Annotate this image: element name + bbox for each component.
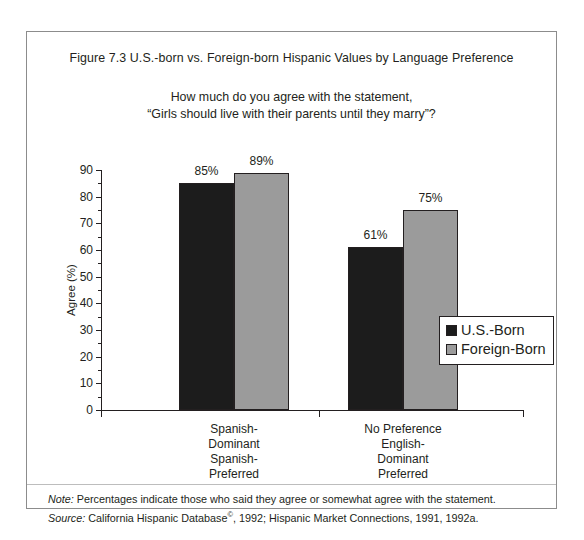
y-tick-label: 50 [80, 270, 93, 284]
y-tick-label: 90 [80, 163, 93, 177]
footnote-source-lead: Source: [48, 512, 85, 524]
legend-label: Foreign-Born [461, 340, 546, 359]
subtitle-line-2: “Girls should live with their parents un… [27, 106, 556, 123]
footnote-note-line: Note: Percentages indicate those who sai… [48, 491, 544, 507]
chart-legend: U.S.-BornForeign-Born [439, 316, 554, 365]
y-tick-minor [98, 370, 102, 371]
y-tick-minor [98, 343, 102, 344]
y-tick-minor [98, 290, 102, 291]
bar-us-born [179, 183, 234, 410]
category-label-line: Preferred [208, 467, 259, 482]
subtitle-line-1: How much do you agree with the statement… [27, 89, 556, 106]
y-tick-label: 60 [80, 243, 93, 257]
y-tick-minor [98, 263, 102, 264]
y-tick-major [96, 277, 102, 278]
y-tick-major [96, 383, 102, 384]
x-tick [319, 410, 320, 417]
bar-foreign-born [234, 173, 289, 410]
x-tick [523, 410, 524, 417]
y-tick-label: 10 [80, 376, 93, 390]
y-tick-minor [98, 397, 102, 398]
y-tick-minor [98, 317, 102, 318]
category-label: Spanish-DominantSpanish-Preferred [208, 422, 259, 482]
legend-label: U.S.-Born [461, 321, 525, 340]
category-label-line: Spanish- [208, 452, 259, 467]
category-label-line: English- [364, 437, 441, 452]
y-tick-label: 0 [86, 403, 93, 417]
footnote-note-lead: Note: [48, 493, 74, 505]
x-axis-line [101, 410, 523, 411]
y-tick-label: 20 [80, 350, 93, 364]
legend-swatch-icon [446, 344, 457, 355]
legend-swatch-icon [446, 325, 457, 336]
bar-value-label: 75% [418, 191, 442, 205]
y-tick-minor [98, 237, 102, 238]
y-tick-major [96, 357, 102, 358]
legend-item-us-born[interactable]: U.S.-Born [446, 321, 546, 340]
bar-value-label: 89% [249, 154, 273, 168]
y-tick-major [96, 223, 102, 224]
y-tick-label: 40 [80, 296, 93, 310]
figure-title: Figure 7.3 U.S.-born vs. Foreign-born Hi… [27, 51, 556, 65]
legend-item-foreign-born[interactable]: Foreign-Born [446, 340, 546, 359]
y-tick-label: 30 [80, 323, 93, 337]
y-tick-major [96, 250, 102, 251]
footnote: Note: Percentages indicate those who sai… [48, 491, 544, 526]
footnote-source-text-a: California Hispanic Database [85, 512, 227, 524]
y-tick-minor [98, 183, 102, 184]
category-label-line: Dominant [364, 452, 441, 467]
category-label-line: Spanish- [208, 422, 259, 437]
category-label-line: No Preference [364, 422, 441, 437]
bar-us-born [348, 247, 403, 410]
category-label: No PreferenceEnglish-DominantPreferred [364, 422, 441, 482]
figure-frame: Figure 7.3 U.S.-born vs. Foreign-born Hi… [26, 31, 557, 509]
x-tick [101, 410, 102, 417]
footnote-divider [27, 484, 556, 485]
category-label-line: Dominant [208, 437, 259, 452]
y-tick-major [96, 330, 102, 331]
y-axis-title: Agree (%) [65, 264, 77, 316]
footnote-source-text-b: , 1992; Hispanic Market Connections, 199… [233, 512, 478, 524]
y-tick-major [96, 197, 102, 198]
category-label-line: Preferred [364, 467, 441, 482]
y-tick-label: 80 [80, 190, 93, 204]
y-tick-label: 70 [80, 216, 93, 230]
bar-foreign-born [403, 210, 458, 410]
footnote-note-text: Percentages indicate those who said they… [74, 493, 496, 505]
chart-subtitle: How much do you agree with the statement… [27, 89, 556, 123]
bar-value-label: 61% [363, 228, 387, 242]
y-tick-major [96, 303, 102, 304]
bar-value-label: 85% [194, 164, 218, 178]
y-tick-major [96, 170, 102, 171]
y-tick-minor [98, 210, 102, 211]
plot-area: Agree (%) 0102030405060708090 85%89%61%7… [101, 170, 523, 410]
footnote-source-line: Source: California Hispanic Database©, 1… [48, 507, 544, 526]
